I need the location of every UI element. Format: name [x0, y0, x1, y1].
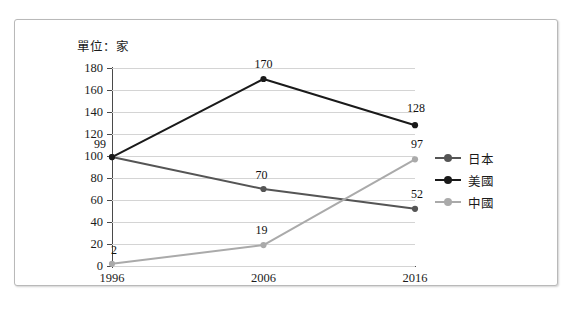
series-marker: [260, 186, 266, 192]
gridline: [112, 266, 415, 267]
x-axis-tick-label: 2016: [380, 271, 450, 286]
data-point-label: 19: [256, 224, 268, 236]
y-axis-tick-label: 180: [63, 62, 103, 75]
data-point-label: 99: [94, 138, 106, 150]
x-axis-tick-label: 1996: [77, 271, 147, 286]
series-marker: [260, 76, 266, 82]
legend-item-label: 美國: [468, 171, 494, 190]
y-axis-tick-labels: 020406080100120140160180: [59, 20, 103, 287]
series-marker: [109, 154, 115, 160]
legend-marker-icon: [435, 174, 461, 186]
legend-marker-icon: [435, 152, 461, 164]
y-axis-tick-label: 80: [63, 172, 103, 185]
legend-item-label: 日本: [468, 149, 494, 168]
y-axis-tick-label: 60: [63, 194, 103, 207]
chart-frame: 單位：家 020406080100120140160180 1996200620…: [14, 19, 558, 286]
series-marker: [412, 122, 418, 128]
y-axis-tick-label: 140: [63, 106, 103, 119]
data-point-label: 70: [256, 169, 268, 181]
data-point-label: 128: [407, 102, 425, 114]
series-marker: [412, 206, 418, 212]
x-axis-tick-label: 2006: [229, 271, 299, 286]
y-axis-tick-label: 160: [63, 84, 103, 97]
legend-item-label: 中國: [468, 193, 494, 212]
data-point-label: 52: [411, 188, 423, 200]
legend: 日本美國中國: [435, 147, 545, 213]
legend-item[interactable]: 美國: [435, 169, 545, 191]
data-point-label: 97: [411, 138, 423, 150]
legend-item[interactable]: 日本: [435, 147, 545, 169]
series-marker: [412, 156, 418, 162]
series-line: [112, 79, 415, 157]
legend-marker-icon: [435, 196, 461, 208]
y-axis-tick-label: 40: [63, 216, 103, 229]
plot-area: 99705217012821997: [112, 68, 415, 266]
series-line: [112, 157, 415, 209]
legend-item[interactable]: 中國: [435, 191, 545, 213]
series-marker: [260, 242, 266, 248]
series-marker: [109, 261, 115, 267]
y-axis-tick-label: 100: [63, 150, 103, 163]
data-point-label: 170: [255, 58, 273, 70]
data-point-label: 2: [111, 244, 117, 256]
y-axis-tick-label: 20: [63, 238, 103, 251]
